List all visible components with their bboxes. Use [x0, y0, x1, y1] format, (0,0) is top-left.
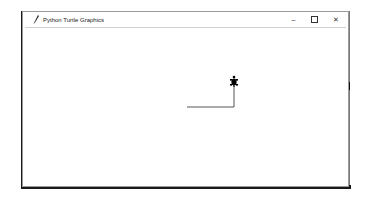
maximize-icon	[311, 16, 318, 23]
title-bar[interactable]: Python Turtle Graphics – ✕	[25, 12, 346, 28]
close-button[interactable]: ✕	[325, 12, 346, 27]
minimize-button[interactable]: –	[283, 12, 304, 27]
feather-icon	[32, 15, 40, 25]
window-title: Python Turtle Graphics	[43, 17, 104, 23]
maximize-button[interactable]	[304, 12, 325, 27]
turtle-canvas	[25, 28, 346, 185]
turtle-icon	[230, 76, 238, 87]
